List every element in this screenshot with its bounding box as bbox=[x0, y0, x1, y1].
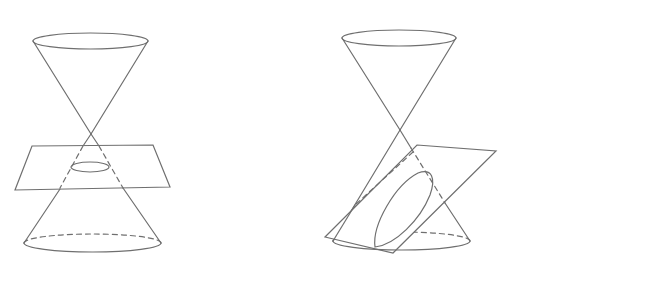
tilted-plane bbox=[325, 145, 496, 253]
left-top-ellipse bbox=[33, 33, 148, 49]
horizontal-plane bbox=[15, 145, 170, 190]
right-lower-cone-right-edge-upper bbox=[400, 130, 411, 148]
left-lower-cone-left-edge bbox=[24, 189, 60, 243]
left-lower-cone-right-edge bbox=[123, 188, 161, 243]
left-upper-cone-right-edge bbox=[91, 41, 148, 134]
figure-circle-section bbox=[15, 33, 170, 252]
conic-sections-diagram bbox=[0, 0, 645, 287]
left-bottom-ellipse-front bbox=[24, 243, 161, 252]
right-upper-cone-left-edge bbox=[342, 38, 400, 130]
left-lower-cone-left-edge-upper bbox=[83, 134, 91, 146]
left-upper-cone-left-edge bbox=[33, 41, 91, 134]
figure-ellipse-section bbox=[325, 30, 496, 253]
right-top-ellipse bbox=[342, 30, 456, 46]
left-lower-cone-right-edge-upper bbox=[91, 134, 99, 146]
left-bottom-ellipse-back bbox=[24, 234, 161, 243]
right-upper-cone-right-edge bbox=[400, 38, 456, 130]
